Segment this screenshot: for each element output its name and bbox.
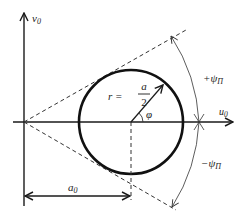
minus-psi-label: −ψП: [201, 157, 222, 171]
svg-text:r =: r =: [108, 90, 122, 102]
radius-label: r = a 2: [108, 80, 150, 108]
plus-psi-label: +ψП: [203, 72, 224, 86]
vertical-axis: v0: [24, 12, 41, 206]
svg-text:a: a: [141, 80, 147, 92]
phi-label: φ: [146, 108, 152, 120]
horizontal-axis: u0: [13, 106, 233, 122]
a0-label: a0: [68, 181, 78, 195]
phi-angle-arc: [139, 113, 143, 122]
horizontal-axis-label: u0: [219, 106, 228, 119]
lower-tangent-line: [24, 122, 176, 210]
svg-text:2: 2: [141, 96, 147, 108]
a0-dimension: a0: [25, 181, 130, 196]
vertical-axis-label: v0: [32, 12, 41, 26]
circle-tangent-diagram: v0 u0 r = a 2 φ: [0, 0, 244, 221]
